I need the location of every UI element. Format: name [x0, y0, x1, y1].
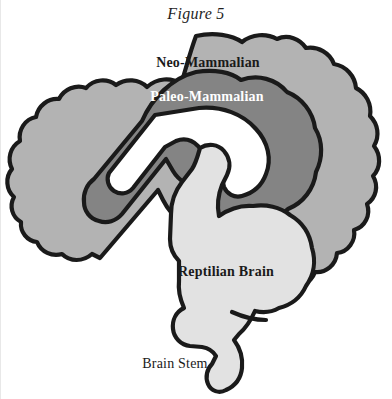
- triune-brain-diagram: [0, 22, 392, 399]
- label-reptilian-brain: Reptilian Brain: [0, 264, 392, 280]
- figure-container: Figure 5 Neo-Mammalian Paleo-Mammalian R…: [0, 0, 392, 399]
- label-neo-mammalian: Neo-Mammalian: [0, 55, 392, 71]
- label-brain-stem: Brain Stem: [0, 356, 392, 372]
- label-paleo-mammalian: Paleo-Mammalian: [0, 89, 392, 105]
- figure-title: Figure 5: [0, 5, 392, 23]
